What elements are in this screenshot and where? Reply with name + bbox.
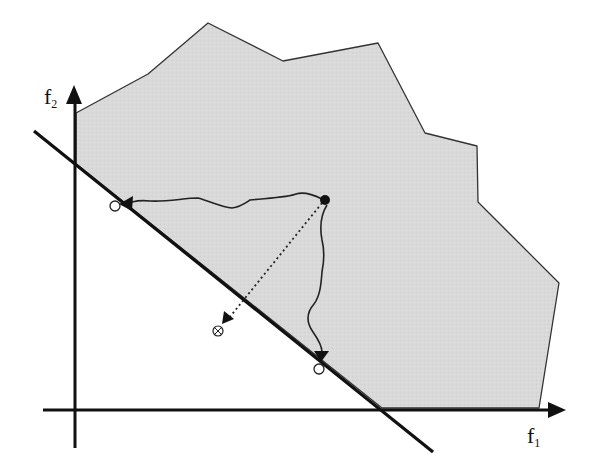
x-axis-arrow-icon	[548, 402, 566, 418]
start-point	[320, 195, 330, 205]
projection-target-crossed-circle-icon	[213, 326, 223, 336]
x-axis-label: f1	[527, 425, 540, 449]
feasible-region	[76, 23, 559, 408]
endpoint-bottom	[314, 364, 324, 374]
endpoint-left	[110, 201, 120, 211]
y-axis-label: f2	[44, 86, 57, 110]
y-axis-label-subscript: 2	[51, 97, 57, 111]
pareto-diagram	[0, 0, 595, 464]
x-axis-label-subscript: 1	[534, 436, 540, 450]
y-axis-arrow-icon	[66, 85, 82, 104]
